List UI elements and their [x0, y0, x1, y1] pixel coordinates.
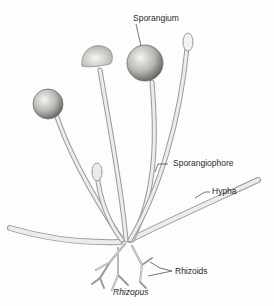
developing-sporangium	[183, 33, 193, 51]
burst-sporangium	[82, 46, 112, 67]
label-rhizoids: Rhizoids	[175, 266, 208, 276]
label-hypha: Hypha	[212, 186, 237, 196]
rhizopus-illustration	[0, 0, 274, 306]
caption: Rhizopus	[113, 287, 148, 297]
label-sporangiophore: Sporangiophore	[173, 158, 234, 168]
sporangiophores	[50, 48, 187, 240]
sporangium-center	[127, 45, 163, 81]
young-sporangiophore	[92, 163, 102, 181]
sporangium-left	[33, 89, 63, 119]
rhizopus-diagram: Sporangium Sporangiophore Hypha Rhizoids…	[0, 0, 274, 306]
label-sporangium: Sporangium	[133, 13, 179, 23]
